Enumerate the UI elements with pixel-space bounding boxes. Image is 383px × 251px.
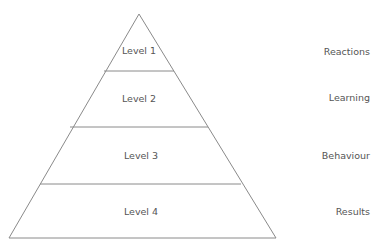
level-4-label: Level 4: [124, 206, 158, 217]
level-3-label: Level 3: [124, 150, 158, 161]
pyramid-diagram: [0, 0, 383, 251]
outcome-behaviour: Behaviour: [322, 150, 370, 161]
level-1-label: Level 1: [122, 45, 156, 56]
level-2-label: Level 2: [122, 93, 156, 104]
outcome-results: Results: [336, 206, 370, 217]
outcome-reactions: Reactions: [324, 46, 370, 57]
outcome-learning: Learning: [329, 92, 370, 103]
